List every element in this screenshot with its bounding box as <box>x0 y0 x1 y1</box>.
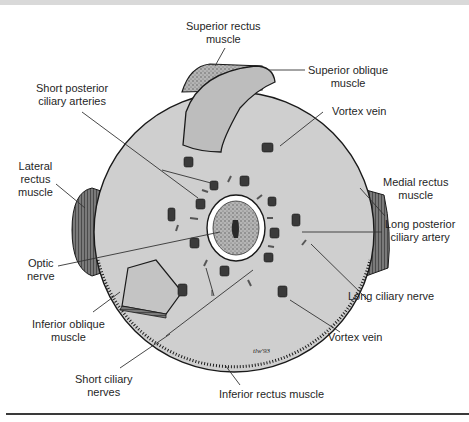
label-inferior-oblique-muscle: Inferior obliquemuscle <box>32 318 105 344</box>
eyeball-posterior-diagram: tlw'93 <box>0 0 469 422</box>
label-medial-rectus-muscle: Medial rectusmuscle <box>383 176 448 202</box>
optic-nerve <box>207 195 265 261</box>
label-vortex-vein-bottom: Vortex vein <box>328 331 382 344</box>
label-lateral-rectus-muscle: Lateralrectusmuscle <box>18 160 53 199</box>
label-long-posterior-ciliary-artery: Long posteriorciliary artery <box>385 218 455 244</box>
label-vortex-vein-top: Vortex vein <box>332 105 386 118</box>
label-long-ciliary-nerve: Long ciliary nerve <box>348 290 434 303</box>
label-short-ciliary-nerves: Short ciliarynerves <box>75 373 132 399</box>
label-superior-oblique-muscle: Superior obliquemuscle <box>308 64 388 90</box>
bottom-rule <box>6 413 469 415</box>
artist-signature: tlw'93 <box>253 347 271 355</box>
label-short-posterior-ciliary-arteries: Short posteriorciliary arteries <box>36 82 108 108</box>
label-optic-nerve: Opticnerve <box>27 257 55 283</box>
label-inferior-rectus-muscle: Inferior rectus muscle <box>219 388 324 401</box>
label-superior-rectus-muscle: Superior rectusmuscle <box>186 20 261 46</box>
